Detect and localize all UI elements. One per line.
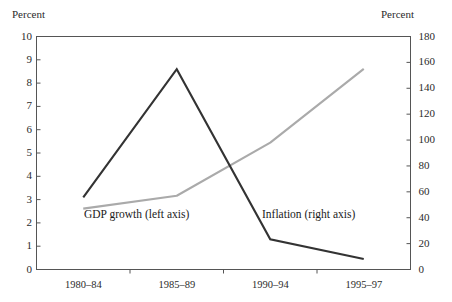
plot-canvas [0, 0, 452, 302]
right-axis-tick-label: 0 [419, 263, 425, 275]
left-axis-tick-label: 0 [6, 263, 32, 275]
x-axis-category-label: 1990–94 [230, 279, 310, 290]
left-axis-ticks [37, 60, 41, 246]
x-axis-ticks [130, 270, 317, 274]
series-annotation-inflation: Inflation (right axis) [262, 208, 355, 220]
series-annotation-gdp-growth: GDP growth (left axis) [84, 208, 189, 220]
left-axis-tick-label: 7 [6, 99, 32, 111]
chart-figure: Percent Percent 012345678910 02040608010… [0, 0, 452, 302]
right-axis-ticks [407, 62, 411, 243]
left-axis-tick-label: 4 [6, 169, 32, 181]
right-axis-tick-label: 140 [419, 81, 436, 93]
left-axis-tick-label: 2 [6, 216, 32, 228]
right-axis-tick-label: 160 [419, 55, 436, 67]
right-axis-tick-label: 40 [419, 211, 430, 223]
right-axis-tick-label: 120 [419, 107, 436, 119]
left-axis-tick-label: 3 [6, 193, 32, 205]
right-axis-tick-label: 60 [419, 185, 430, 197]
right-axis-tick-label: 80 [419, 159, 430, 171]
x-axis-category-label: 1985–89 [137, 279, 217, 290]
x-axis-category-label: 1980–84 [43, 279, 123, 290]
series-line-gdp-growth [83, 69, 364, 259]
left-axis-tick-label: 8 [6, 76, 32, 88]
left-axis-tick-label: 5 [6, 146, 32, 158]
left-axis-tick-label: 6 [6, 123, 32, 135]
right-axis-tick-label: 180 [419, 30, 436, 42]
left-axis-tick-label: 1 [6, 239, 32, 251]
left-axis-tick-label: 9 [6, 53, 32, 65]
right-axis-tick-label: 20 [419, 237, 430, 249]
x-axis-category-label: 1995–97 [324, 279, 404, 290]
right-axis-tick-label: 100 [419, 133, 436, 145]
left-axis-tick-label: 10 [6, 30, 32, 42]
